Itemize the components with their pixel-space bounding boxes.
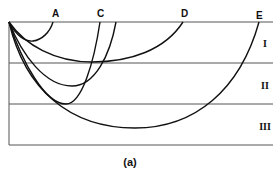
label-c: C [97, 8, 104, 19]
label-d: D [181, 8, 188, 19]
curve-e [9, 22, 259, 128]
zone-label-ii: II [261, 80, 269, 91]
label-a: A [52, 8, 59, 19]
zone-label-i: I [263, 38, 267, 49]
curve-c2 [9, 22, 116, 86]
ray-path-diagram: A C D E I II III (a) [0, 0, 278, 176]
zone-label-iii: III [259, 121, 271, 132]
figure-caption: (a) [123, 156, 137, 168]
label-e: E [256, 10, 263, 21]
